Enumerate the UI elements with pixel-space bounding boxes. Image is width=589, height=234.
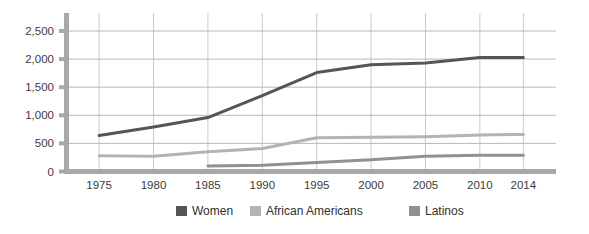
y-tick-label-0: 0	[48, 166, 54, 178]
chart-canvas: 05001,0001,5002,0002,500 197519801985199…	[0, 0, 589, 234]
legend-swatch-women	[176, 206, 187, 216]
y-tick-label-2000: 2,000	[25, 53, 54, 65]
x-tick-label-2000: 2000	[358, 179, 384, 191]
x-tick-label-1975: 1975	[86, 179, 112, 191]
x-tick-label-1990: 1990	[250, 179, 276, 191]
x-tick-label-1980: 1980	[141, 179, 167, 191]
x-tick-label-2014: 2014	[511, 179, 537, 191]
legend-label-latinos: Latinos	[425, 204, 464, 218]
x-tick-label-1995: 1995	[304, 179, 330, 191]
x-tick-label-2010: 2010	[467, 179, 493, 191]
x-axis-tick-labels: 197519801985199019952000200520102014	[86, 179, 536, 191]
legend-label-women: Women	[192, 204, 233, 218]
legend-swatch-latinos	[409, 206, 420, 216]
y-tick-label-500: 500	[35, 137, 54, 149]
y-tick-label-1000: 1,000	[25, 109, 54, 121]
y-tick-label-1500: 1,500	[25, 81, 54, 93]
line-chart: 05001,0001,5002,0002,500 197519801985199…	[0, 0, 589, 234]
legend-label-african-americans: African Americans	[266, 204, 363, 218]
x-tick-label-2005: 2005	[413, 179, 439, 191]
chart-background	[0, 0, 589, 234]
y-tick-label-2500: 2,500	[25, 25, 54, 37]
legend-swatch-african-americans	[250, 206, 261, 216]
x-tick-label-1985: 1985	[195, 179, 221, 191]
